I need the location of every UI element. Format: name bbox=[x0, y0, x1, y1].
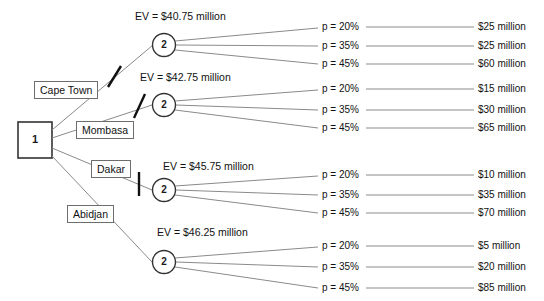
payoff-label-ct-2: $25 million bbox=[478, 40, 526, 51]
outcome-edge-ab-2 bbox=[176, 262, 318, 267]
pruned-mark-cape-town bbox=[108, 66, 121, 87]
probability-label-mb-3: p = 45% bbox=[322, 122, 359, 133]
probability-label-ab-1: p = 20% bbox=[322, 240, 359, 251]
probability-label-mb-2: p = 35% bbox=[322, 104, 359, 115]
chance-node-cape-town-shape bbox=[153, 34, 176, 57]
alternative-label-mombasa[interactable]: Mombasa bbox=[76, 121, 134, 139]
probability-label-ct-1: p = 20% bbox=[322, 21, 359, 32]
outcome-edge-mb-3 bbox=[175, 110, 318, 128]
decision-node-1-shape bbox=[18, 122, 52, 158]
probability-label-mb-1: p = 20% bbox=[322, 83, 359, 94]
decision-tree-diagram: 1 2 2 2 2 Cape Town Mombasa Dakar Abidja… bbox=[0, 0, 544, 301]
ev-label-dakar: EV = $45.75 million bbox=[163, 160, 254, 172]
alternative-label-dakar[interactable]: Dakar bbox=[91, 160, 131, 178]
alternative-label-abidjan[interactable]: Abidjan bbox=[67, 205, 114, 223]
payoff-label-dk-2: $35 million bbox=[478, 189, 526, 200]
alternative-label-cape-town[interactable]: Cape Town bbox=[34, 81, 98, 99]
ev-label-abidjan: EV = $46.25 million bbox=[157, 226, 248, 238]
chance-node-dakar-shape bbox=[153, 179, 176, 202]
outcome-edge-ct-3 bbox=[175, 50, 318, 64]
outcome-edge-ab-3 bbox=[175, 267, 318, 288]
payoff-label-ab-3: $85 million bbox=[478, 282, 526, 293]
outcome-edge-dk-3 bbox=[175, 195, 318, 213]
payoff-label-mb-3: $65 million bbox=[478, 122, 526, 133]
probability-label-dk-1: p = 20% bbox=[322, 169, 359, 180]
chance-node-abidjan-shape bbox=[153, 251, 176, 274]
probability-label-ct-2: p = 35% bbox=[322, 40, 359, 51]
probability-label-ab-2: p = 35% bbox=[322, 261, 359, 272]
outcome-edge-ab-1 bbox=[175, 247, 318, 258]
tree-edges-layer bbox=[0, 0, 544, 301]
payoff-label-dk-3: $70 million bbox=[478, 207, 526, 218]
ev-label-mombasa: EV = $42.75 million bbox=[140, 71, 231, 83]
outcome-edge-ct-2 bbox=[176, 45, 318, 46]
payoff-label-mb-2: $30 million bbox=[478, 104, 526, 115]
outcome-edge-dk-1 bbox=[175, 176, 318, 186]
probability-label-dk-2: p = 35% bbox=[322, 189, 359, 200]
probability-label-ab-3: p = 45% bbox=[322, 282, 359, 293]
outcome-edge-dk-2 bbox=[176, 190, 318, 195]
outcome-edge-mb-1 bbox=[175, 90, 318, 101]
payoff-label-dk-1: $10 million bbox=[478, 169, 526, 180]
probability-label-dk-3: p = 45% bbox=[322, 207, 359, 218]
payoff-label-mb-1: $15 million bbox=[478, 83, 526, 94]
outcome-edge-ct-1 bbox=[175, 28, 318, 41]
payoff-label-ab-1: $5 million bbox=[478, 240, 520, 251]
payoff-label-ab-2: $20 million bbox=[478, 261, 526, 272]
payoff-label-ct-1: $25 million bbox=[478, 21, 526, 32]
pruned-mark-mombasa bbox=[134, 94, 145, 118]
probability-label-ct-3: p = 45% bbox=[322, 58, 359, 69]
payoff-label-ct-3: $60 million bbox=[478, 58, 526, 69]
ev-label-cape-town: EV = $40.75 million bbox=[135, 10, 226, 22]
outcome-edge-mb-2 bbox=[176, 105, 318, 110]
chance-node-mombasa-shape bbox=[153, 94, 176, 117]
